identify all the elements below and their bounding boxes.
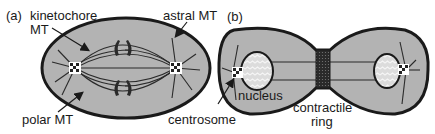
panel-a-label: (a) [6,9,22,23]
contractile-ring [316,50,330,88]
polar-mt-label: polar MT [22,113,73,127]
nucleus-right [374,54,400,88]
kinetochore-mt-label-1: kinetochore [30,9,97,23]
nucleus-left [241,52,273,90]
centrosome-b-left [232,67,243,78]
panel-b-label: (b) [227,10,243,24]
panel-a-cell [42,18,210,118]
centrosome-left [69,62,81,74]
centrosome-b-right [398,64,409,75]
contractile-ring-label-1: contractile [293,101,352,115]
astral-mt-label: astral MT [163,9,217,23]
contractile-ring-label-2: ring [311,115,333,129]
centrosome-right [170,62,182,74]
centrosome-label: centrosome [168,113,236,127]
nucleus-label: nucleus [238,89,283,103]
kinetochore-mt-label-2: MT [30,23,49,37]
